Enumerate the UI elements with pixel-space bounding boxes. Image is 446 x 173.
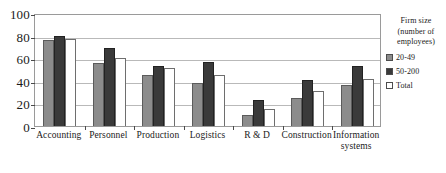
y-axis-tick-label: 100 xyxy=(0,8,30,21)
bar-group xyxy=(332,15,382,126)
legend-item: Total xyxy=(386,81,446,92)
legend-swatch-icon xyxy=(386,54,393,61)
bar xyxy=(302,80,313,126)
legend-swatch-icon xyxy=(386,82,393,89)
bar xyxy=(43,40,54,126)
y-axis-tick-mark xyxy=(31,15,35,16)
bar xyxy=(341,85,352,126)
bar xyxy=(142,75,153,126)
legend: Firm size (number of employees) 20-4950-… xyxy=(386,16,446,95)
y-axis: 020406080100 xyxy=(0,0,30,173)
legend-entries: 20-4950-200Total xyxy=(386,53,446,92)
bar xyxy=(253,100,264,126)
legend-item: 50-200 xyxy=(386,67,446,78)
bar-chart-figure: 020406080100 AccountingPersonnelProducti… xyxy=(0,0,446,173)
y-axis-tick-mark xyxy=(31,83,35,84)
bar xyxy=(153,66,164,126)
y-axis-tick-label: 20 xyxy=(0,98,30,111)
bar-group xyxy=(233,15,283,126)
y-axis-tick-mark xyxy=(31,128,35,129)
bar xyxy=(264,109,275,126)
bar xyxy=(214,75,225,126)
bar xyxy=(192,83,203,126)
x-axis-tick-label: Information systems xyxy=(325,130,386,152)
bar xyxy=(115,58,126,126)
bar xyxy=(93,63,104,126)
legend-swatch-icon xyxy=(386,68,393,75)
bar xyxy=(363,79,374,126)
y-axis-tick-mark xyxy=(31,60,35,61)
bar-group xyxy=(35,15,85,126)
y-axis-tick-label: 0 xyxy=(0,121,30,134)
bar xyxy=(65,39,76,126)
legend-item-label: Total xyxy=(396,81,413,92)
bar-group xyxy=(134,15,184,126)
y-axis-tick-mark xyxy=(31,38,35,39)
bar xyxy=(54,36,65,126)
bar xyxy=(104,48,115,126)
bar xyxy=(352,66,363,126)
y-axis-tick-mark xyxy=(31,105,35,106)
bar xyxy=(313,91,324,126)
legend-item: 20-49 xyxy=(386,53,446,64)
bar-group xyxy=(283,15,333,126)
bar xyxy=(242,115,253,126)
legend-title: Firm size (number of employees) xyxy=(386,16,446,48)
x-axis: AccountingPersonnelProductionLogisticsR … xyxy=(34,130,381,172)
bar-group xyxy=(85,15,135,126)
bar xyxy=(164,68,175,126)
bar xyxy=(291,98,302,126)
plot-area xyxy=(34,14,381,127)
y-axis-tick-label: 60 xyxy=(0,53,30,66)
bar xyxy=(203,62,214,126)
legend-item-label: 20-49 xyxy=(396,53,415,64)
y-axis-tick-label: 40 xyxy=(0,75,30,88)
bar-group xyxy=(184,15,234,126)
legend-item-label: 50-200 xyxy=(396,67,419,78)
y-axis-tick-label: 80 xyxy=(0,30,30,43)
bars-layer xyxy=(35,15,380,126)
